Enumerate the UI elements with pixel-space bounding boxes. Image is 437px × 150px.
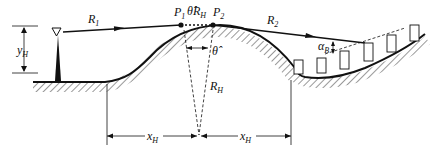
label-yH: yH	[16, 43, 29, 59]
point-P1	[178, 22, 183, 27]
label-xH-right: xH	[239, 129, 252, 145]
label-alphaB: αB	[318, 39, 329, 55]
transmitter-tower	[55, 35, 61, 81]
label-RH: RH	[209, 79, 224, 95]
label-theta: θ̂	[212, 44, 223, 58]
label-theta-RH: θ̂RH	[187, 4, 207, 20]
label-R1: R1	[87, 12, 99, 28]
label-P2: P2	[212, 5, 224, 21]
ray-R1	[63, 25, 181, 32]
label-P1: P1	[173, 5, 185, 21]
hill-diffraction-diagram: yH R1 θ̂RH P1 P2 R2 θ̂ RH αB xH xH	[0, 0, 437, 150]
label-R2: R2	[266, 13, 278, 29]
transmitter-antenna-icon	[52, 28, 61, 36]
label-xH-left: xH	[146, 129, 159, 145]
